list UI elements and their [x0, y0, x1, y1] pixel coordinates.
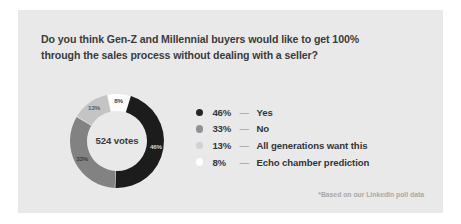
- legend-row: 33%—No: [196, 121, 369, 138]
- legend-label: Echo chamber prediction: [256, 157, 369, 168]
- legend-percentage: 46%: [212, 107, 239, 118]
- legend-row: 13%—All generations want this: [196, 137, 369, 154]
- legend-percentage: 8%: [212, 157, 239, 168]
- chart-legend: 46%—Yes33%—No13%—All generations want th…: [196, 104, 369, 170]
- legend-color-dot: [196, 109, 203, 116]
- donut-slice-label: 8%: [114, 97, 123, 104]
- donut-chart: 8%46%33%13% 524 votes: [47, 72, 187, 203]
- legend-color-dot: [196, 158, 203, 165]
- donut-center-label: 524 votes: [96, 135, 139, 146]
- legend-percentage: 33%: [212, 123, 239, 134]
- legend-color-dot: [196, 142, 203, 149]
- legend-percentage: 13%: [212, 140, 239, 151]
- legend-label: No: [256, 123, 269, 134]
- legend-dash: —: [239, 157, 256, 168]
- legend-dash: —: [239, 140, 256, 151]
- legend-label: All generations want this: [256, 140, 367, 151]
- poll-question-line-2: through the sales process without dealin…: [41, 48, 401, 64]
- donut-slice-label: 33%: [76, 155, 89, 162]
- poll-question: Do you think Gen-Z and Millennial buyers…: [41, 32, 401, 63]
- poll-card: Do you think Gen-Z and Millennial buyers…: [18, 10, 443, 213]
- donut-slice-label: 13%: [88, 104, 101, 111]
- legend-dash: —: [239, 123, 256, 134]
- donut-slice: [70, 117, 116, 188]
- donut-chart-svg: 8%46%33%13% 524 votes: [47, 72, 187, 203]
- poll-question-line-1: Do you think Gen-Z and Millennial buyers…: [41, 32, 401, 48]
- legend-dash: —: [239, 107, 256, 118]
- legend-label: Yes: [256, 107, 272, 118]
- footnote: *Based on our LinkedIn poll data: [318, 191, 424, 198]
- legend-row: 46%—Yes: [196, 104, 369, 121]
- legend-color-dot: [196, 125, 203, 132]
- legend-row: 8%—Echo chamber prediction: [196, 154, 369, 171]
- donut-slice-label: 46%: [150, 143, 163, 150]
